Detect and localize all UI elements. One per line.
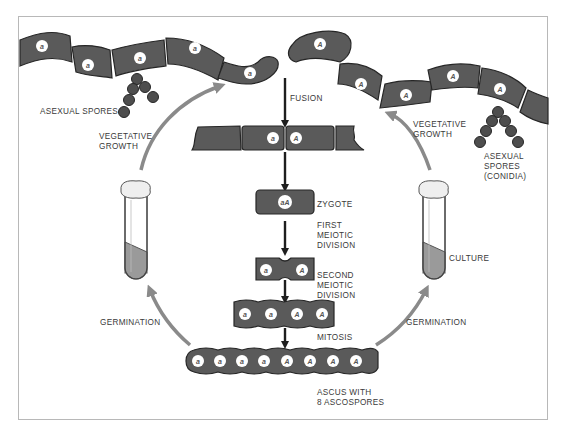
label-asexual-spores: ASEXUAL SPORES bbox=[40, 107, 118, 117]
hypha-mating-type-A: A A A A A bbox=[289, 31, 548, 124]
svg-text:a: a bbox=[86, 62, 90, 69]
svg-text:A: A bbox=[298, 267, 304, 274]
conidia-spores-icon bbox=[475, 107, 524, 148]
ascus-cell: a a a a A A A A bbox=[186, 348, 378, 374]
svg-text:A: A bbox=[329, 358, 335, 365]
label-mitosis: MITOSIS bbox=[317, 333, 353, 343]
label-ascus: ASCUS WITH 8 ASCOSPORES bbox=[317, 388, 384, 408]
second-division-cell: a a A A bbox=[234, 300, 334, 328]
label-first-meiotic-division: FIRST MEIOTIC DIVISION bbox=[317, 221, 355, 251]
label-asexual-spores-conidia: ASEXUAL SPORES (CONIDIA) bbox=[484, 152, 526, 182]
svg-text:a: a bbox=[248, 70, 252, 77]
svg-text:A: A bbox=[352, 358, 358, 365]
svg-text:a: a bbox=[243, 311, 247, 318]
svg-text:A: A bbox=[318, 311, 324, 318]
diagram-artwork: a a a a a A A bbox=[0, 0, 566, 435]
label-culture: CULTURE bbox=[449, 254, 489, 264]
svg-text:A: A bbox=[283, 358, 289, 365]
label-zygote: ZYGOTE bbox=[317, 200, 352, 210]
label-vegetative-growth-right: VEGETATIVE GROWTH bbox=[413, 120, 466, 140]
svg-text:a: a bbox=[138, 55, 142, 62]
label-fusion: FUSION bbox=[290, 94, 323, 104]
asexual-spores-left-icon bbox=[119, 74, 159, 118]
svg-text:a: a bbox=[269, 311, 273, 318]
hypha-mating-type-a: a a a a a bbox=[20, 33, 278, 84]
svg-text:a: a bbox=[271, 135, 275, 142]
svg-text:a: a bbox=[264, 267, 268, 274]
svg-text:A: A bbox=[449, 73, 455, 80]
culture-tube-left-icon bbox=[121, 181, 150, 279]
svg-text:A: A bbox=[306, 358, 312, 365]
svg-text:a: a bbox=[240, 358, 244, 365]
label-germination-right: GERMINATION bbox=[406, 318, 466, 328]
svg-text:a: a bbox=[218, 358, 222, 365]
label-vegetative-growth-left: VEGETATIVE GROWTH bbox=[99, 132, 152, 152]
culture-tube-right-icon bbox=[419, 181, 448, 279]
svg-text:a: a bbox=[196, 358, 200, 365]
svg-text:A: A bbox=[316, 41, 322, 48]
fused-hyphae: a A bbox=[192, 126, 364, 150]
svg-text:aA: aA bbox=[281, 199, 290, 206]
first-division-cell: a A bbox=[256, 258, 314, 280]
svg-text:A: A bbox=[357, 81, 363, 88]
svg-text:A: A bbox=[292, 135, 298, 142]
svg-text:a: a bbox=[40, 43, 44, 50]
zygote-cell: aA bbox=[256, 190, 314, 214]
label-germination-left: GERMINATION bbox=[100, 318, 160, 328]
label-second-meiotic-division: SECOND MEIOTIC DIVISION bbox=[317, 271, 355, 301]
svg-text:A: A bbox=[293, 311, 299, 318]
svg-text:A: A bbox=[496, 86, 502, 93]
svg-text:a: a bbox=[262, 358, 266, 365]
svg-text:A: A bbox=[402, 92, 408, 99]
svg-text:a: a bbox=[193, 45, 197, 52]
neurospora-life-cycle-diagram: a a a a a A A bbox=[0, 0, 566, 435]
